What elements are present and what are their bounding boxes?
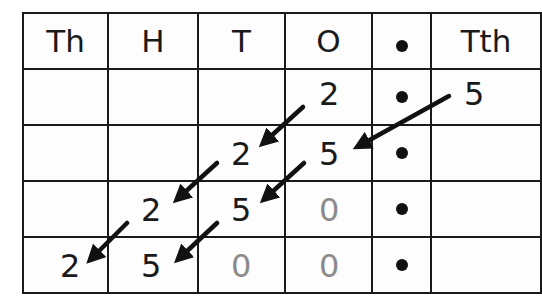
placeholder-zero: 0 [319,250,339,282]
table-row: 2 5 [23,125,541,181]
cell-ones: 0 [285,237,372,293]
header-tens: T [198,13,285,69]
digit: 2 [141,194,161,226]
decimal-point-icon [396,147,408,159]
cell-hundreds [108,69,198,125]
cell-thousands [23,125,108,181]
cell-decimal-point [372,237,431,293]
cell-tenths [431,125,541,181]
decimal-point-icon [396,203,408,215]
header-thousands: Th [23,13,108,69]
cell-tens: 2 [198,125,285,181]
digit: 2 [60,250,80,282]
cell-thousands [23,181,108,237]
placeholder-zero: 0 [231,250,251,282]
decimal-point-icon [396,259,408,271]
cell-hundreds: 5 [108,237,198,293]
cell-ones: 5 [285,125,372,181]
cell-ones: 2 [285,69,372,125]
digit: 5 [141,250,161,282]
table-row: 2 5 [23,69,541,125]
placeholder-zero: 0 [319,194,339,226]
cell-hundreds [108,125,198,181]
decimal-point-icon [396,40,408,52]
cell-tens: 0 [198,237,285,293]
place-value-table: Th H T O Tth 2 5 2 [22,12,542,294]
header-hundreds: H [108,13,198,69]
cell-thousands: 2 [23,237,108,293]
cell-ones: 0 [285,181,372,237]
table-row: 2 5 0 [23,181,541,237]
header-tenths: Tth [431,13,541,69]
cell-tenths [431,181,541,237]
cell-decimal-point [372,125,431,181]
cell-decimal-point [372,181,431,237]
digit: 2 [319,78,339,110]
header-row: Th H T O Tth [23,13,541,69]
digit: 5 [464,78,484,110]
digit: 5 [231,194,251,226]
digit: 5 [319,138,339,170]
table-row: 2 5 0 0 [23,237,541,293]
digit: 2 [231,138,251,170]
cell-tens: 5 [198,181,285,237]
cell-tens [198,69,285,125]
decimal-point-icon [396,91,408,103]
place-value-chart: Th H T O Tth 2 5 2 [22,12,542,298]
cell-tenths [431,237,541,293]
cell-hundreds: 2 [108,181,198,237]
cell-tenths: 5 [431,69,541,125]
cell-thousands [23,69,108,125]
header-ones: O [285,13,372,69]
header-decimal-point [372,13,431,69]
cell-decimal-point [372,69,431,125]
